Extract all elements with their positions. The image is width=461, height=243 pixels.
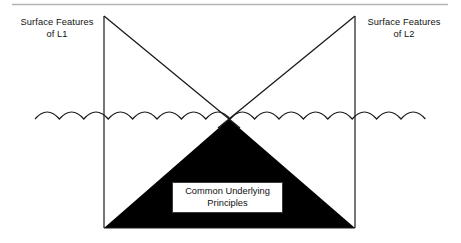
label-surface-features-l1: Surface Features of L1 [11,16,103,40]
common-underlying-principles-label-box: Common Underlying Principles [172,182,283,213]
label-surface-features-l2: Surface Features of L2 [358,16,450,40]
cup-label-line1: Common Underlying [185,186,270,198]
label-surface-features-l2-line1: Surface Features [358,16,450,28]
label-surface-features-l1-line2: of L1 [11,28,103,40]
label-surface-features-l2-line2: of L2 [358,28,450,40]
diagram-canvas: Surface Features of L1 Surface Features … [0,0,461,243]
label-surface-features-l1-line1: Surface Features [11,16,103,28]
diagonal-right-to-left [218,16,355,128]
diagonal-left-to-right [104,16,240,128]
cup-label-line2: Principles [207,198,247,210]
